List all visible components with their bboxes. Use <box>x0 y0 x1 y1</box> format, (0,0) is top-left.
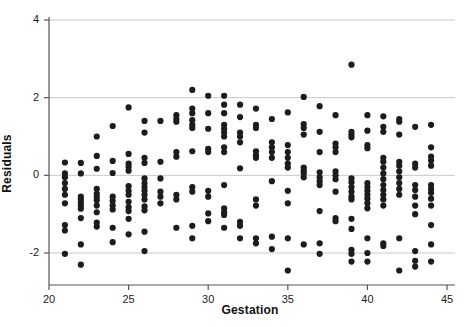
data-point <box>285 142 291 148</box>
data-point <box>412 187 418 193</box>
data-point <box>205 210 211 216</box>
data-point <box>126 168 132 174</box>
data-point <box>332 189 338 195</box>
data-point <box>62 222 68 228</box>
data-point <box>348 196 354 202</box>
data-point <box>205 194 211 200</box>
data-point <box>221 133 227 139</box>
data-point <box>157 159 163 165</box>
data-point <box>94 153 100 159</box>
data-point <box>348 251 354 257</box>
data-point <box>412 258 418 264</box>
data-point <box>157 175 163 181</box>
data-point <box>62 227 68 233</box>
data-point <box>237 235 243 241</box>
data-point <box>412 263 418 269</box>
data-point <box>396 168 402 174</box>
data-point <box>364 128 370 134</box>
data-point <box>221 225 227 231</box>
data-point <box>126 216 132 222</box>
data-point <box>285 267 291 273</box>
data-point <box>269 246 275 252</box>
data-point <box>348 134 354 140</box>
data-point <box>412 203 418 209</box>
data-point <box>428 144 434 150</box>
data-point <box>221 110 227 116</box>
gridlines <box>49 20 455 253</box>
data-point <box>253 203 259 209</box>
data-point <box>301 174 307 180</box>
data-point <box>317 129 323 135</box>
data-point <box>141 130 147 136</box>
data-point <box>221 182 227 188</box>
data-point <box>237 133 243 139</box>
data-point <box>285 200 291 206</box>
data-point <box>173 154 179 160</box>
data-point <box>428 163 434 169</box>
data-point <box>189 110 195 116</box>
data-point <box>317 149 323 155</box>
data-point <box>189 125 195 131</box>
data-point <box>301 125 307 131</box>
data-point <box>253 125 259 131</box>
x-tick-label: 35 <box>268 293 308 305</box>
data-point <box>253 196 259 202</box>
data-point <box>269 155 275 161</box>
data-point <box>237 114 243 120</box>
data-point <box>173 196 179 202</box>
data-point <box>364 112 370 118</box>
data-point <box>126 199 132 205</box>
data-point <box>285 164 291 170</box>
data-point <box>126 208 132 214</box>
data-point <box>428 122 434 128</box>
data-point <box>285 155 291 161</box>
data-point <box>317 182 323 188</box>
data-point <box>285 188 291 194</box>
data-point <box>396 163 402 169</box>
data-point <box>396 186 402 192</box>
y-tick-label: 0 <box>13 168 39 180</box>
data-point <box>173 225 179 231</box>
data-point <box>141 248 147 254</box>
data-point <box>78 206 84 212</box>
data-point <box>205 149 211 155</box>
data-point <box>126 104 132 110</box>
axis-ticks <box>44 20 447 290</box>
data-point <box>78 160 84 166</box>
data-point <box>189 223 195 229</box>
data-point <box>94 166 100 172</box>
data-point <box>221 212 227 218</box>
data-point <box>94 133 100 139</box>
data-point <box>412 194 418 200</box>
data-point <box>173 119 179 125</box>
data-point <box>189 235 195 241</box>
data-point <box>396 131 402 137</box>
data-point <box>412 248 418 254</box>
data-point <box>205 218 211 224</box>
data-point <box>364 205 370 211</box>
data-point <box>62 251 68 257</box>
data-point <box>332 112 338 118</box>
data-point <box>269 149 275 155</box>
data-point <box>221 93 227 99</box>
data-point <box>380 243 386 249</box>
data-point <box>317 103 323 109</box>
x-axis-title: Gestation <box>50 303 450 317</box>
data-point <box>253 240 259 246</box>
data-point <box>78 215 84 221</box>
data-point <box>221 102 227 108</box>
data-point <box>157 118 163 124</box>
data-point <box>364 235 370 241</box>
data-point <box>189 189 195 195</box>
data-point <box>110 239 116 245</box>
data-point <box>253 155 259 161</box>
data-point <box>110 225 116 231</box>
data-point <box>396 192 402 198</box>
data-point <box>285 109 291 115</box>
data-point <box>62 159 68 165</box>
data-point <box>62 186 68 192</box>
x-tick-label: 20 <box>29 293 69 305</box>
data-point <box>301 131 307 137</box>
data-point <box>157 194 163 200</box>
data-point <box>317 240 323 246</box>
